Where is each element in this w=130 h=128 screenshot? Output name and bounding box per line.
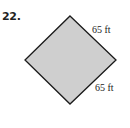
side-length-label-top: 65 ft xyxy=(92,24,111,35)
side-length-label-bottom: 65 ft xyxy=(95,82,114,93)
diamond-figure xyxy=(0,0,130,128)
